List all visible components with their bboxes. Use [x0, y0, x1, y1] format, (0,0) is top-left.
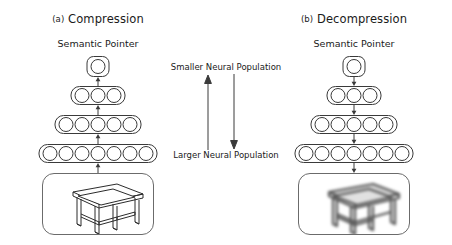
neuron-node — [75, 146, 90, 161]
neuron-node — [123, 117, 138, 132]
neuron-node — [139, 146, 154, 161]
neuron-node — [331, 88, 346, 103]
layer-semantic-pointer-b — [343, 56, 366, 77]
neuron-node — [43, 146, 58, 161]
neuron-node — [75, 117, 90, 132]
neuron-node — [347, 88, 362, 103]
neuron-node — [91, 146, 106, 161]
neuron-node — [91, 59, 106, 74]
panel-decompression-title-text: Decompression — [317, 12, 407, 26]
neuron-node — [363, 88, 378, 103]
layer-hidden-3-a — [71, 86, 126, 105]
connector-arrow-down-b4 — [350, 163, 359, 173]
connector-arrow-up-a1 — [94, 77, 103, 86]
image-box-decompression — [298, 173, 410, 235]
neuron-node — [91, 88, 106, 103]
panel-compression-index: (a) — [52, 14, 64, 24]
network-stack-decompression — [264, 56, 444, 241]
layer-semantic-pointer-a — [87, 56, 110, 77]
neuron-node — [379, 117, 394, 132]
neuron-node — [379, 146, 394, 161]
table-line-drawing-icon — [43, 174, 154, 235]
layer-hidden-3-b — [327, 86, 382, 105]
neuron-node — [347, 117, 362, 132]
neuron-node — [107, 146, 122, 161]
panel-decompression: (b) Decompression Semantic Pointer — [264, 0, 444, 245]
neuron-node — [123, 146, 138, 161]
neuron-node — [347, 59, 362, 74]
connector-arrow-down-b1 — [350, 77, 359, 86]
layer-hidden-5-a — [55, 115, 142, 134]
connector-arrow-up-a4 — [94, 163, 103, 173]
panel-decompression-title: (b) Decompression — [264, 12, 444, 26]
image-box-compression — [42, 173, 154, 235]
semantic-pointer-label-b: Semantic Pointer — [264, 38, 444, 49]
panel-decompression-index: (b) — [301, 14, 313, 24]
neuron-node — [363, 117, 378, 132]
neuron-node — [315, 117, 330, 132]
neuron-node — [59, 146, 74, 161]
neuron-node — [331, 146, 346, 161]
connector-arrow-up-a3 — [94, 134, 103, 144]
neuron-node — [59, 117, 74, 132]
neuron-node — [107, 117, 122, 132]
connector-arrow-down-b3 — [350, 134, 359, 144]
neuron-node — [299, 146, 314, 161]
table-line-drawing-blurred-icon — [299, 174, 410, 235]
layer-hidden-5-b — [311, 115, 398, 134]
connector-arrow-down-b2 — [350, 105, 359, 115]
neuron-node — [363, 146, 378, 161]
neuron-node — [315, 146, 330, 161]
neuron-node — [107, 88, 122, 103]
layer-output-7-b — [295, 144, 414, 163]
panel-compression-title-text: Compression — [68, 12, 144, 26]
layer-input-7-a — [39, 144, 158, 163]
neuron-node — [75, 88, 90, 103]
neuron-node — [91, 117, 106, 132]
neuron-node — [331, 117, 346, 132]
connector-arrow-up-a2 — [94, 105, 103, 115]
neuron-node — [347, 146, 362, 161]
neuron-node — [395, 146, 410, 161]
